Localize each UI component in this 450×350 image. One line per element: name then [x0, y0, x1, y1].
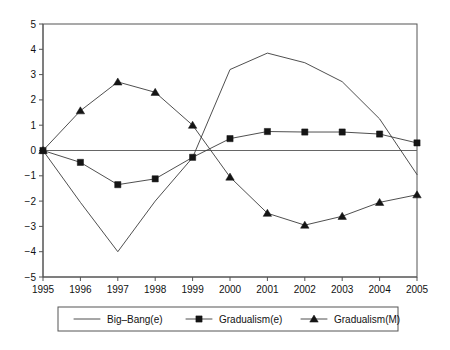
y-tick-label: −5 [25, 272, 37, 283]
line-chart: 543210−1−2−3−4−5 19951996199719981999200… [0, 0, 450, 350]
data-point-marker [414, 140, 420, 146]
y-tick-label: −4 [25, 246, 37, 257]
y-tick-label: −3 [25, 221, 37, 232]
x-tick-label: 2001 [256, 284, 279, 295]
x-tick-label: 2004 [368, 284, 391, 295]
x-tick-label: 2003 [331, 284, 354, 295]
x-tick-label: 1995 [32, 284, 55, 295]
x-tick-label: 1996 [69, 284, 92, 295]
legend-label: Gradualism(M) [334, 314, 400, 325]
data-point-marker [377, 131, 383, 137]
x-tick-label: 1998 [144, 284, 167, 295]
y-tick-label: 5 [30, 19, 36, 30]
data-point-marker [339, 129, 345, 135]
x-tick-label: 2005 [406, 284, 429, 295]
y-tick-label: −2 [25, 196, 37, 207]
data-point-marker [264, 128, 270, 134]
chart-background [0, 0, 450, 350]
y-tick-label: 4 [30, 44, 36, 55]
y-tick-label: −1 [25, 170, 37, 181]
chart-legend: Big–Bang(e)Gradualism(e)Gradualism(M) [58, 307, 400, 331]
y-tick-label: 1 [30, 120, 36, 131]
legend-square-marker-icon [196, 316, 202, 322]
x-tick-label: 1999 [181, 284, 204, 295]
data-point-marker [152, 176, 158, 182]
data-point-marker [190, 154, 196, 160]
y-tick-label: 0 [30, 145, 36, 156]
legend-label: Big–Bang(e) [107, 314, 163, 325]
data-point-marker [227, 136, 233, 142]
data-point-marker [77, 159, 83, 165]
y-tick-label: 2 [30, 94, 36, 105]
y-tick-label: 3 [30, 69, 36, 80]
data-point-marker [115, 182, 121, 188]
x-tick-label: 2000 [219, 284, 242, 295]
x-tick-label: 2002 [294, 284, 317, 295]
chart-canvas: 543210−1−2−3−4−5 19951996199719981999200… [0, 0, 450, 350]
legend-label: Gradualism(e) [219, 314, 282, 325]
data-point-marker [302, 129, 308, 135]
x-tick-label: 1997 [107, 284, 130, 295]
